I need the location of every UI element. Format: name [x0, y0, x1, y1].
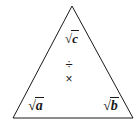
radical-b: √b — [103, 97, 119, 113]
sqrt-icon-b: √ — [103, 99, 111, 113]
radicand-c: c — [71, 30, 79, 45]
label-sqrt-c: √c — [57, 30, 87, 45]
multiplication-sign-icon: × — [57, 73, 81, 85]
sqrt-icon-a: √ — [28, 99, 36, 113]
radical-a: √a — [28, 97, 44, 113]
radicand-b: b — [110, 97, 119, 113]
formula-triangle-diagram: √c ÷ × √a √b — [0, 0, 138, 129]
radical-c: √c — [65, 30, 79, 45]
division-sign-icon: ÷ — [57, 58, 81, 71]
label-sqrt-b: √b — [95, 97, 127, 113]
label-sqrt-a: √a — [20, 97, 52, 113]
sqrt-icon-c: √ — [65, 32, 72, 45]
radicand-a: a — [35, 97, 44, 113]
